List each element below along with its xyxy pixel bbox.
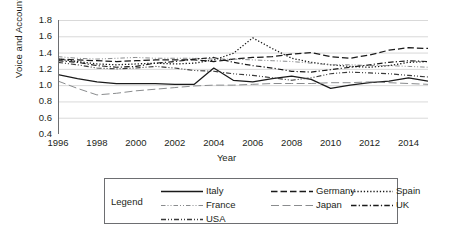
legend-swatch-france	[161, 200, 203, 210]
chart-area: Voice and Accountability 1.81.61.41.21.0…	[0, 0, 453, 165]
legend-swatch-italy	[161, 186, 203, 196]
legend-label: Japan	[316, 200, 342, 210]
legend-label: Spain	[396, 186, 420, 196]
legend-label: Germany	[316, 186, 355, 196]
legend-item-germany[interactable]: Germany	[271, 184, 355, 198]
x-tick-label: 2000	[116, 138, 156, 148]
x-tick-label: 2012	[350, 138, 390, 148]
chart-figure: Voice and Accountability 1.81.61.41.21.0…	[0, 0, 453, 233]
legend-item-uk[interactable]: UK	[351, 198, 409, 212]
legend-title: Legend	[111, 196, 143, 207]
legend-label: UK	[396, 200, 409, 210]
legend-label: USA	[206, 214, 226, 224]
legend-label: Italy	[206, 186, 223, 196]
legend-box: Legend ItalyGermanySpainFranceJapanUKUSA	[104, 178, 398, 224]
x-tick-label: 2004	[194, 138, 234, 148]
x-tick-label: 1998	[77, 138, 117, 148]
x-tick-label: 2006	[233, 138, 273, 148]
legend-item-france[interactable]: France	[161, 198, 236, 212]
legend-item-italy[interactable]: Italy	[161, 184, 223, 198]
x-tick-label: 2008	[272, 138, 312, 148]
legend-swatch-germany	[271, 186, 313, 196]
legend-label: France	[206, 200, 236, 210]
legend-item-japan[interactable]: Japan	[271, 198, 342, 212]
legend-item-usa[interactable]: USA	[161, 212, 226, 226]
x-tick-label: 2002	[155, 138, 195, 148]
legend-swatch-japan	[271, 200, 313, 210]
legend-swatch-usa	[161, 214, 203, 224]
legend-swatch-uk	[351, 200, 393, 210]
x-tick-label: 2014	[389, 138, 429, 148]
legend-swatch-spain	[351, 186, 393, 196]
x-axis-ticks: 1996199820002002200420062008201020122014	[0, 0, 453, 165]
x-tick-label: 1996	[38, 138, 78, 148]
legend-item-spain[interactable]: Spain	[351, 184, 420, 198]
x-tick-label: 2010	[311, 138, 351, 148]
x-axis-label: Year	[0, 152, 453, 163]
